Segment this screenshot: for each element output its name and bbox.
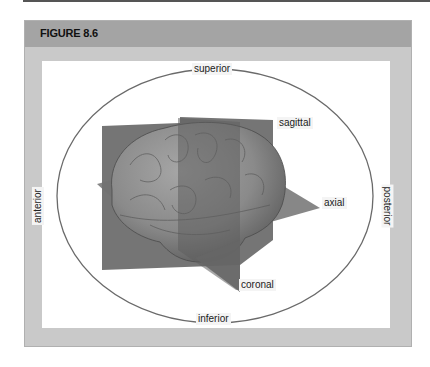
label-anterior: anterior: [32, 187, 44, 225]
label-superior: superior: [192, 63, 232, 75]
label-inferior: inferior: [196, 313, 231, 325]
label-sagittal: sagittal: [277, 117, 313, 129]
label-coronal: coronal: [239, 279, 276, 291]
brain-planes-diagram: [0, 0, 430, 367]
label-posterior: posterior: [381, 185, 393, 228]
label-axial: axial: [322, 197, 347, 209]
